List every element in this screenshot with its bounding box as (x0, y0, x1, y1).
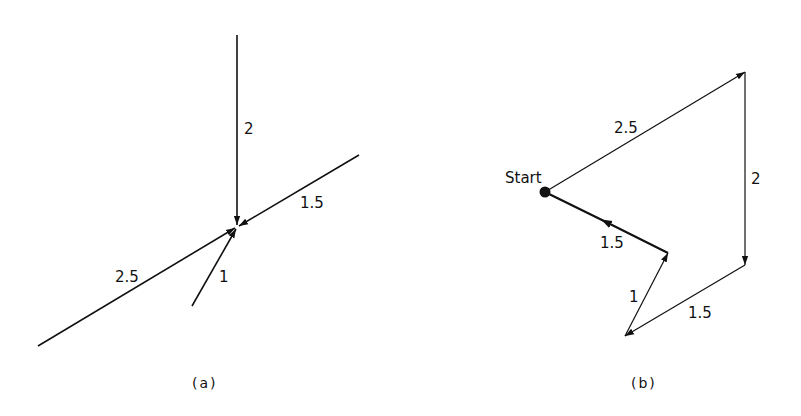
label-a-2-5: 2.5 (115, 268, 139, 286)
label-b-1-5-return: 1.5 (600, 234, 624, 252)
caption-a: (a) (192, 375, 218, 391)
label-a-1-5: 1.5 (300, 194, 324, 212)
panel-a: 2 1.5 2.5 1 (a) (38, 35, 359, 391)
start-point (540, 187, 551, 198)
caption-b: (b) (631, 375, 657, 391)
label-a-2: 2 (244, 120, 254, 138)
vector-a-1-5 (239, 155, 359, 226)
label-b-1-5-lower: 1.5 (688, 304, 712, 322)
vector-diagram: 2 1.5 2.5 1 (a) Start 2.5 2 1.5 1 1.5 (b… (0, 0, 801, 416)
vector-a-2-5 (38, 228, 235, 346)
label-b-2: 2 (751, 170, 761, 188)
panel-b: Start 2.5 2 1.5 1 1.5 (b) (505, 72, 761, 391)
start-label: Start (505, 169, 542, 187)
label-a-1: 1 (219, 268, 229, 286)
label-b-2-5: 2.5 (614, 119, 638, 137)
label-b-1: 1 (629, 288, 639, 306)
vector-b-2-5 (545, 72, 745, 192)
